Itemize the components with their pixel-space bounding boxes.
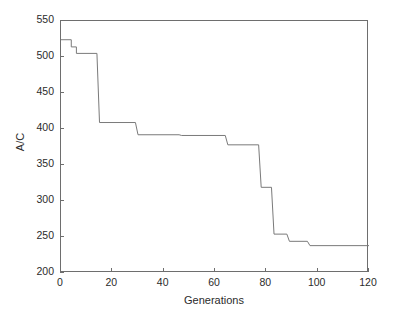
x-tick-label: 120 (348, 276, 388, 288)
x-tick-label: 100 (297, 276, 337, 288)
x-tick-mark (111, 268, 112, 272)
y-tick-label: 500 (24, 50, 54, 61)
x-axis-tick-labels: 020406080100120 (0, 276, 397, 292)
y-axis-title: A/C (14, 120, 26, 164)
y-tick-mark (60, 56, 64, 57)
plot-area (60, 20, 368, 272)
y-tick-label: 400 (24, 122, 54, 133)
x-tick-label: 80 (245, 276, 285, 288)
x-tick-mark (214, 268, 215, 272)
x-tick-mark (163, 268, 164, 272)
data-line-plot (61, 21, 369, 273)
x-tick-label: 60 (194, 276, 234, 288)
y-tick-mark (60, 20, 64, 21)
y-tick-label: 250 (24, 230, 54, 241)
y-tick-mark (60, 164, 64, 165)
x-tick-mark (60, 268, 61, 272)
x-tick-label: 0 (40, 276, 80, 288)
y-tick-label: 450 (24, 86, 54, 97)
x-tick-label: 40 (143, 276, 183, 288)
x-tick-mark (265, 268, 266, 272)
x-axis-title: Generations (60, 294, 368, 306)
x-tick-mark (317, 268, 318, 272)
y-tick-label: 350 (24, 158, 54, 169)
y-tick-mark (60, 236, 64, 237)
x-tick-mark (368, 268, 369, 272)
y-tick-mark (60, 200, 64, 201)
y-tick-mark (60, 128, 64, 129)
y-tick-label: 550 (24, 14, 54, 25)
y-tick-mark (60, 92, 64, 93)
y-tick-label: 300 (24, 194, 54, 205)
x-tick-label: 20 (91, 276, 131, 288)
series-line-best-ac (61, 40, 369, 246)
figure-canvas: 200250300350400450500550 020406080100120… (0, 0, 397, 319)
y-tick-mark (60, 272, 64, 273)
